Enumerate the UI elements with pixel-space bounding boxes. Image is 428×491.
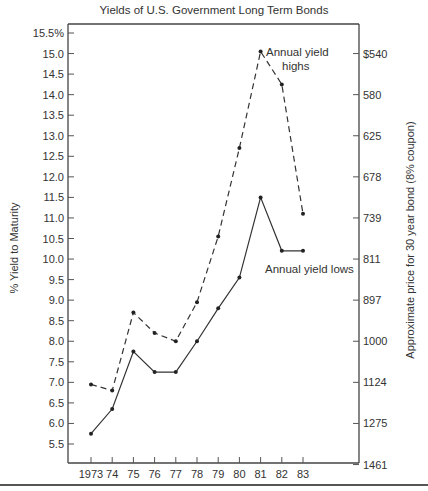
x-tick-label: 82 [276, 468, 288, 480]
y-tick-label-left: 8.5 [49, 315, 64, 327]
y-tick-label-left: 5.5 [49, 438, 64, 450]
x-tick-label: 77 [170, 468, 182, 480]
y-tick-label-right: 1275 [363, 417, 387, 429]
y-tick-label-right: 678 [363, 171, 381, 183]
x-tick-label: 80 [233, 468, 245, 480]
annotation-highs-line2: highs [282, 60, 310, 72]
x-tick-label: 79 [212, 468, 224, 480]
series-line-lows [91, 197, 303, 433]
x-tick-label: 76 [148, 468, 160, 480]
y-tick-label-left: 11.0 [43, 212, 64, 224]
data-point-high [110, 389, 114, 393]
plot-area: 15.5%15.014.514.013.513.012.512.011.511.… [0, 0, 428, 491]
data-point-high [237, 146, 241, 150]
data-point-low [131, 350, 135, 354]
y-tick-label-left: 7.5 [49, 356, 64, 368]
y-tick-label-left: 7.0 [49, 376, 64, 388]
y-tick-label-left: 10.0 [43, 253, 64, 265]
data-point-high [216, 234, 220, 238]
y-tick-label-left: 6.5 [49, 397, 64, 409]
data-point-high [174, 339, 178, 343]
y-tick-label-right: 811 [363, 253, 381, 265]
y-tick-label-left: 9.0 [49, 294, 64, 306]
y-tick-label-left: 14.0 [43, 89, 64, 101]
y-tick-label-left: 12.5 [43, 150, 64, 162]
y-tick-label-left: 13.5 [43, 109, 64, 121]
y-tick-label-left: 11.5 [43, 191, 64, 203]
x-tick-label: 78 [191, 468, 203, 480]
y-tick-label-left: 8.0 [49, 335, 64, 347]
data-point-high [280, 82, 284, 86]
x-tick-label: 83 [297, 468, 309, 480]
x-tick-label: 1973 [79, 468, 103, 480]
annotation-lows: Annual yield lows [265, 263, 354, 275]
data-point-high [259, 49, 263, 53]
y-tick-label-left: 6.0 [49, 417, 64, 429]
x-tick-label: 81 [254, 468, 266, 480]
y-tick-label-left: 15.0 [43, 48, 64, 60]
annotation-highs-line1: Annual yield [266, 46, 329, 58]
data-point-low [110, 407, 114, 411]
data-point-low [237, 276, 241, 280]
y-tick-label-right: 625 [363, 130, 381, 142]
data-point-low [174, 370, 178, 374]
data-point-low [301, 249, 305, 253]
y-tick-label-left: 15.5% [33, 27, 64, 39]
data-point-low [280, 249, 284, 253]
data-point-low [195, 339, 199, 343]
y-tick-label-left: 13.0 [43, 130, 64, 142]
y-tick-label-right: $540 [363, 48, 387, 60]
x-tick-label: 75 [127, 468, 139, 480]
data-point-low [153, 370, 157, 374]
y-tick-label-left: 12.0 [43, 171, 64, 183]
data-point-low [259, 195, 263, 199]
y-tick-label-right: 1461 [363, 459, 387, 471]
x-tick-label: 74 [106, 468, 118, 480]
data-point-low [89, 432, 93, 436]
data-point-high [301, 212, 305, 216]
bottom-divider [0, 484, 428, 486]
data-point-high [131, 310, 135, 314]
y-tick-label-left: 9.5 [49, 274, 64, 286]
y-tick-label-right: 1000 [363, 335, 387, 347]
data-point-high [89, 382, 93, 386]
data-point-high [195, 300, 199, 304]
y-tick-label-right: 580 [363, 89, 381, 101]
y-tick-label-right: 897 [363, 294, 381, 306]
data-point-high [153, 331, 157, 335]
data-point-low [216, 306, 220, 310]
y-tick-label-left: 14.5 [43, 68, 64, 80]
y-tick-label-right: 1124 [363, 376, 387, 388]
bond-yield-chart: Yields of U.S. Government Long Term Bond… [0, 0, 428, 491]
y-tick-label-right: 739 [363, 212, 381, 224]
y-tick-label-left: 10.5 [43, 233, 64, 245]
